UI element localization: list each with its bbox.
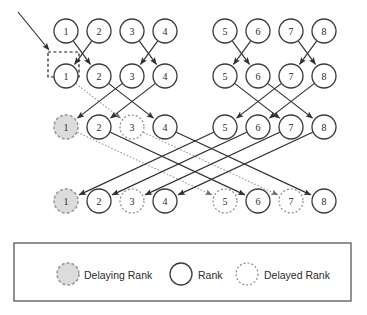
edge-3-to-7-dotted	[143, 132, 278, 195]
rank-node-label: 5	[223, 26, 228, 37]
rank-node-label: 2	[97, 122, 102, 133]
rank-node-label: 4	[163, 26, 168, 37]
edge-8-to-7-solid	[300, 41, 317, 64]
rank-node-label: 6	[256, 122, 261, 133]
rank-node-row-1-5[interactable]: 5	[213, 19, 237, 43]
rank-node-row-1-1[interactable]: 1	[54, 19, 78, 43]
rank-node-label: 5	[223, 71, 228, 82]
rank-node-label: 7	[289, 196, 294, 207]
rank-node-row-1-4[interactable]: 4	[153, 19, 177, 43]
rank-circle	[170, 263, 192, 285]
edges-layer	[73, 41, 316, 195]
legend-layer: Delaying RankRankDelayed Rank	[14, 243, 351, 301]
legend-label-rank: Rank	[198, 269, 223, 281]
rank-node-row-3-6[interactable]: 6	[246, 115, 270, 139]
delaying-rank-circle	[57, 263, 79, 285]
rank-node-label: 4	[163, 122, 168, 133]
edge-6-to-2-solid	[112, 132, 247, 195]
rank-node-label: 2	[97, 196, 102, 207]
rank-node-row-3-4[interactable]: 4	[153, 115, 177, 139]
rank-node-row-4-2[interactable]: 2	[87, 189, 111, 213]
edge-5-to-1-solid	[79, 132, 214, 195]
rank-node-row-4-1[interactable]: 1	[54, 189, 78, 213]
rank-node-row-4-4[interactable]: 4	[153, 189, 177, 213]
edge-4-to-3-solid	[141, 41, 158, 64]
rank-node-label: 5	[223, 122, 228, 133]
edge-6-to-5-solid	[234, 41, 251, 64]
rank-node-label: 1	[64, 196, 69, 207]
rank-node-label: 3	[130, 26, 135, 37]
rank-node-row-4-8[interactable]: 8	[312, 189, 336, 213]
rank-node-label: 6	[256, 26, 261, 37]
edge-4-to-8-solid	[176, 132, 311, 195]
edge-5-to-7-solid	[235, 84, 280, 118]
edge-8-to-4-solid	[178, 132, 313, 195]
rank-node-label: 3	[130, 196, 135, 207]
edge-7-to-3-solid	[145, 132, 280, 195]
butterfly-delay-diagram: 12345678123456781234567812345678 Delayin…	[0, 0, 367, 315]
rank-node-row-4-7[interactable]: 7	[279, 189, 303, 213]
rank-node-label: 6	[256, 196, 261, 207]
edge-1-to-3-dotted	[76, 84, 121, 118]
edge-1-to-2-solid	[73, 41, 90, 64]
rank-node-label: 4	[163, 196, 168, 207]
rank-node-row-2-2[interactable]: 2	[87, 64, 111, 88]
edge-1-to-5-dotted	[77, 132, 212, 195]
rank-node-label: 7	[289, 71, 294, 82]
rank-node-row-2-1[interactable]: 1	[54, 64, 78, 88]
rank-node-label: 5	[223, 196, 228, 207]
rank-node-row-1-2[interactable]: 2	[87, 19, 111, 43]
rank-node-row-1-6[interactable]: 6	[246, 19, 270, 43]
rank-node-row-1-7[interactable]: 7	[279, 19, 303, 43]
rank-node-row-3-2[interactable]: 2	[87, 115, 111, 139]
rank-node-row-4-3[interactable]: 3	[120, 189, 144, 213]
edge-3-to-1-solid	[77, 84, 122, 118]
rank-node-label: 3	[130, 122, 135, 133]
rank-node-row-4-6[interactable]: 6	[246, 189, 270, 213]
edge-2-to-6-solid	[110, 132, 245, 195]
rank-node-row-3-7[interactable]: 7	[279, 115, 303, 139]
rank-node-row-1-8[interactable]: 8	[312, 19, 336, 43]
legend-label-delayed: Delayed Rank	[264, 269, 331, 281]
rank-node-label: 3	[130, 71, 135, 82]
edge-2-to-1-solid	[75, 41, 92, 64]
rank-node-row-3-5[interactable]: 5	[213, 115, 237, 139]
rank-node-label: 7	[289, 122, 294, 133]
legend-label-delaying: Delaying Rank	[84, 269, 153, 281]
rank-node-row-2-3[interactable]: 3	[120, 64, 144, 88]
rank-node-row-3-3[interactable]: 3	[120, 115, 144, 139]
rank-node-row-2-5[interactable]: 5	[213, 64, 237, 88]
rank-node-label: 8	[322, 122, 327, 133]
rank-node-label: 6	[256, 71, 261, 82]
rank-node-label: 2	[97, 71, 102, 82]
rank-node-label: 1	[64, 122, 69, 133]
edge-4-to-2-solid	[110, 84, 155, 118]
diagram-canvas: 12345678123456781234567812345678 Delayin…	[0, 0, 367, 315]
edge-7-to-5-solid	[236, 84, 281, 118]
incoming-pointer-arrow	[18, 12, 49, 50]
rank-node-row-2-7[interactable]: 7	[279, 64, 303, 88]
rank-node-row-1-3[interactable]: 3	[120, 19, 144, 43]
rank-node-row-3-8[interactable]: 8	[312, 115, 336, 139]
rank-node-row-4-5[interactable]: 5	[213, 189, 237, 213]
edge-7-to-8-solid	[298, 41, 315, 64]
rank-node-row-2-8[interactable]: 8	[312, 64, 336, 88]
rank-node-row-2-6[interactable]: 6	[246, 64, 270, 88]
edge-5-to-6-solid	[232, 41, 249, 64]
rank-node-label: 7	[289, 26, 294, 37]
edge-3-to-4-solid	[139, 41, 156, 64]
rank-node-row-3-1[interactable]: 1	[54, 115, 78, 139]
rank-node-label: 2	[97, 26, 102, 37]
rank-node-label: 8	[322, 26, 327, 37]
rank-node-label: 1	[64, 71, 69, 82]
rank-node-label: 1	[64, 26, 69, 37]
delayed-rank-circle	[236, 263, 258, 285]
rank-node-label: 8	[322, 71, 327, 82]
rank-node-row-2-4[interactable]: 4	[153, 64, 177, 88]
rank-node-label: 4	[163, 71, 168, 82]
rank-node-label: 8	[322, 196, 327, 207]
edge-8-to-6-solid	[269, 84, 314, 118]
nodes-layer: 12345678123456781234567812345678	[54, 19, 336, 213]
